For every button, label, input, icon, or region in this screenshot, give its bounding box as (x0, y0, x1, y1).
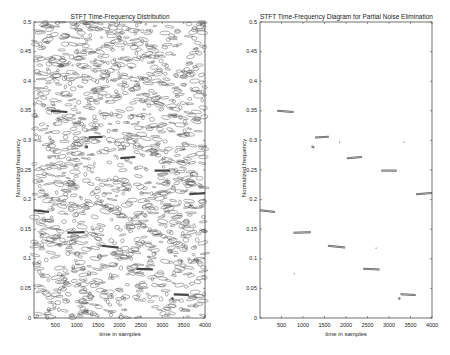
ytick-label: 0.3 (12, 137, 31, 143)
xtick-label: 3500 (174, 322, 194, 328)
xtick-label: 500 (45, 322, 65, 328)
ytick-label: 0 (12, 315, 31, 321)
right-plot-xlabel: time in samples (260, 331, 432, 337)
ytick-label: 0.25 (238, 167, 257, 173)
ytick-label: 0.4 (12, 78, 31, 84)
ytick-label: 0.35 (12, 107, 31, 113)
xtick-label: 3000 (152, 322, 172, 328)
xtick-label: 2000 (336, 322, 356, 328)
xtick-label: 2000 (110, 322, 130, 328)
ytick-label: 0 (238, 315, 257, 321)
ytick-label: 0.5 (238, 19, 257, 25)
ytick-label: 0.5 (12, 19, 31, 25)
ytick-label: 0.2 (12, 196, 31, 202)
xtick-label: 1000 (67, 322, 87, 328)
left-plot-area (0, 0, 450, 355)
xtick-label: 2500 (358, 322, 378, 328)
xtick-label: 4000 (422, 322, 442, 328)
xtick-label: 1500 (88, 322, 108, 328)
ytick-label: 0.4 (238, 78, 257, 84)
ytick-label: 0.25 (12, 167, 31, 173)
ytick-label: 0.15 (238, 226, 257, 232)
ytick-label: 0.15 (12, 226, 31, 232)
ytick-label: 0.45 (12, 48, 31, 54)
left-plot-xlabel: time in samples (34, 331, 206, 337)
right-plot-title: STFT Time-Frequency Diagram for Partial … (260, 13, 432, 20)
figure: STFT Time-Frequency Distribution time in… (0, 0, 450, 355)
xtick-label: 3500 (401, 322, 421, 328)
xtick-label: 1000 (293, 322, 313, 328)
ytick-label: 0.3 (238, 137, 257, 143)
ytick-label: 0.45 (238, 48, 257, 54)
ytick-label: 0.35 (238, 107, 257, 113)
xtick-label: 3000 (379, 322, 399, 328)
ytick-label: 0.2 (238, 196, 257, 202)
xtick-label: 500 (272, 322, 292, 328)
xtick-label: 1500 (315, 322, 335, 328)
xtick-label: 2500 (131, 322, 151, 328)
ytick-label: 0.1 (12, 255, 31, 261)
ytick-label: 0.1 (238, 255, 257, 261)
ytick-label: 0.05 (238, 285, 257, 291)
xtick-label: 4000 (195, 322, 215, 328)
ytick-label: 0.05 (12, 285, 31, 291)
